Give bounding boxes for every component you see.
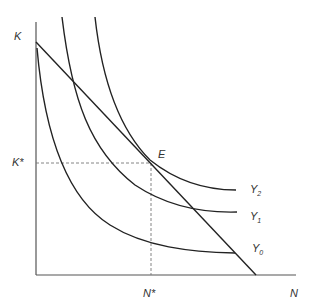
isocost-line [36,42,256,275]
isoquant-diagram [0,0,312,308]
curve-label-y0: Y0 [252,242,263,254]
curve-label-y1-sub: 1 [257,217,261,224]
isoquant-y2 [95,17,236,190]
curve-label-y2: Y2 [250,183,261,195]
curve-label-y1: Y1 [250,210,261,222]
n-star-label: N* [143,287,155,299]
isoquant-y1 [62,17,237,212]
x-axis-label: N [290,287,298,299]
k-star-label: K* [12,156,24,168]
y-axis-label: K [14,30,21,42]
curve-label-y2-sub: 2 [257,190,261,197]
curve-label-y0-sub: 0 [259,249,263,256]
equilibrium-label: E [158,148,165,160]
